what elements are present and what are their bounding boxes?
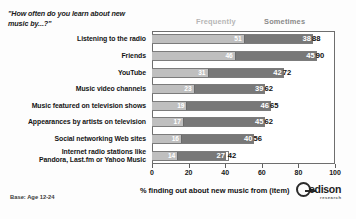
category-label: Internet radio stations likePandora, Las…: [0, 147, 149, 164]
category-label-line: YouTube: [0, 68, 146, 76]
category-label: Music featured on television shows: [0, 102, 149, 110]
category-label-line: Music featured on television shows: [0, 102, 146, 110]
bar-value-frequently: 23: [184, 86, 191, 93]
category-label-line: Pandora, Last.fm or Yahoo Music: [0, 156, 146, 164]
bar-value-frequently: 16: [172, 136, 179, 143]
x-axis-tick-label: 100: [329, 169, 341, 176]
legend-item-sometimes: Sometimes: [264, 17, 305, 26]
bar-segment-frequently: 19: [152, 102, 186, 110]
edison-research-logo: edison research: [296, 180, 352, 204]
stacked-bar: 314272: [152, 68, 284, 78]
bar-segment-sometimes: 46: [186, 102, 269, 110]
x-axis-tick-label: 0: [150, 169, 154, 176]
bar-segment-sometimes: 42: [208, 69, 283, 77]
stacked-bar: 194665: [152, 101, 271, 111]
x-axis-tick-label: 40: [221, 169, 229, 176]
x-axis-tick-label: 20: [185, 169, 193, 176]
x-axis-tick-label: 60: [258, 169, 266, 176]
stacked-bar: 164056: [152, 134, 254, 144]
x-axis-tick: [262, 164, 263, 168]
bar-value-sometimes: 45: [306, 52, 314, 60]
x-axis-tick: [152, 164, 153, 168]
bar-value-sometimes: 27: [217, 152, 225, 160]
bar-segment-frequently: 17: [152, 118, 183, 126]
category-label-line: Music video channels: [0, 85, 146, 93]
bar-value-total: 65: [270, 102, 278, 110]
bar-value-total: 62: [264, 85, 272, 93]
bar-value-frequently: 31: [198, 69, 205, 76]
bar-segment-frequently: 23: [152, 85, 194, 93]
category-label-line: Listening to the radio: [0, 35, 146, 43]
bar-segment-sometimes: 27: [177, 152, 226, 160]
table-row: 164056: [152, 131, 335, 148]
bar-value-frequently: 51: [234, 36, 241, 43]
bar-value-frequently: 14: [168, 152, 175, 159]
bar-segment-sometimes: 39: [194, 85, 265, 93]
table-row: 513888: [152, 31, 335, 48]
bar-value-total: 72: [283, 69, 291, 77]
bar-segment-frequently: 31: [152, 69, 208, 77]
chart-container: "How often do you learn about new music …: [0, 0, 356, 219]
base-footnote: Base: Age 12-24: [10, 194, 55, 200]
stacked-bar: 142742: [152, 151, 229, 161]
bar-segment-sometimes: 45: [183, 118, 265, 126]
table-row: 464590: [152, 48, 335, 65]
bar-segment-frequently: 46: [152, 52, 235, 60]
bar-value-sometimes: 40: [244, 135, 252, 143]
bar-value-sometimes: 42: [273, 69, 281, 77]
bar-value-total: 90: [316, 52, 324, 60]
x-axis-tick: [298, 164, 299, 168]
bar-segment-sometimes: 40: [181, 135, 253, 143]
table-row: 174562: [152, 114, 335, 131]
stacked-bar: 513888: [152, 34, 313, 44]
bar-value-frequently: 17: [173, 119, 180, 126]
category-label-line: Social networking Web sites: [0, 135, 146, 143]
table-row: 194665: [152, 98, 335, 115]
bar-segment-sometimes: 38: [244, 35, 312, 43]
bar-value-sometimes: 39: [255, 85, 263, 93]
brand-tagline: research: [320, 195, 341, 200]
bar-value-sometimes: 45: [255, 119, 263, 127]
category-label: Listening to the radio: [0, 35, 149, 43]
table-row: 314272: [152, 64, 335, 81]
bar-value-total: 42: [228, 152, 236, 160]
table-row: 142742: [152, 147, 335, 164]
table-row: 233962: [152, 81, 335, 98]
x-axis-caption: % finding out about new music from (item…: [140, 186, 289, 195]
bar-value-sometimes: 38: [303, 36, 311, 44]
chart-question-title: "How often do you learn about new music …: [8, 9, 144, 28]
bar-value-frequently: 46: [225, 53, 232, 60]
bar-segment-sometimes: 45: [235, 52, 316, 60]
bar-segment-frequently: 14: [152, 152, 177, 160]
brand-name: edison: [309, 183, 341, 195]
legend-item-frequently: Frequently: [196, 17, 236, 26]
x-axis-tick: [189, 164, 190, 168]
bar-value-sometimes: 46: [260, 102, 268, 110]
x-axis-tick: [225, 164, 226, 168]
bar-segment-frequently: 51: [152, 35, 244, 43]
bar-rows-layer: 5138884645903142722339621946651745621640…: [152, 31, 335, 164]
x-axis-tick: [335, 164, 336, 168]
x-axis-tick-label: 80: [294, 169, 302, 176]
category-label-line: Internet radio stations like: [0, 147, 146, 155]
category-label: Music video channels: [0, 85, 149, 93]
stacked-bar: 233962: [152, 84, 265, 94]
bar-segment-frequently: 16: [152, 135, 181, 143]
category-label: Friends: [0, 52, 149, 60]
bar-value-total: 56: [253, 135, 261, 143]
stacked-bar: 174562: [152, 117, 265, 127]
bar-value-total: 62: [264, 119, 272, 127]
category-label-line: Appearances by artists on television: [0, 118, 146, 126]
category-label: YouTube: [0, 68, 149, 76]
stacked-bar: 464590: [152, 51, 317, 61]
category-label: Social networking Web sites: [0, 135, 149, 143]
category-label-line: Friends: [0, 52, 146, 60]
category-label: Appearances by artists on television: [0, 118, 149, 126]
bar-value-frequently: 19: [177, 103, 184, 110]
bar-value-total: 88: [312, 36, 320, 44]
